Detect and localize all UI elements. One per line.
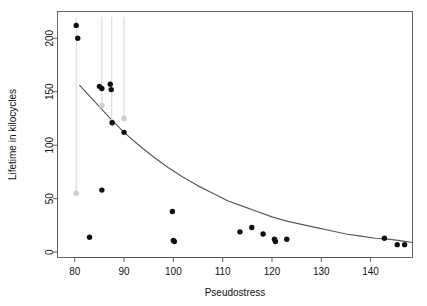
censored-point-3 bbox=[121, 116, 126, 121]
x-tick-label-0: 80 bbox=[69, 266, 81, 277]
censored-point-0 bbox=[74, 191, 79, 196]
y-tick-label-4: 200 bbox=[44, 29, 55, 46]
fit-curve bbox=[80, 85, 413, 242]
x-tick-label-6: 140 bbox=[362, 266, 379, 277]
data-point-7 bbox=[121, 130, 126, 135]
data-point-14 bbox=[249, 225, 254, 230]
data-point-18 bbox=[284, 237, 289, 242]
y-axis-label: Lifetime in kilocycles bbox=[7, 89, 18, 180]
data-point-8 bbox=[99, 187, 104, 192]
data-point-19 bbox=[382, 236, 387, 241]
y-tick-label-0: 0 bbox=[44, 249, 55, 255]
data-point-12 bbox=[172, 239, 177, 244]
data-point-1 bbox=[75, 36, 80, 41]
data-point-17 bbox=[273, 239, 278, 244]
y-tick-label-2: 100 bbox=[44, 136, 55, 153]
data-point-10 bbox=[170, 209, 175, 214]
x-tick-label-5: 130 bbox=[313, 266, 330, 277]
data-point-15 bbox=[260, 231, 265, 236]
y-tick-label-1: 50 bbox=[44, 193, 55, 205]
x-tick-label-4: 120 bbox=[264, 266, 281, 277]
x-tick-label-3: 110 bbox=[215, 266, 231, 277]
data-point-4 bbox=[108, 82, 113, 87]
data-point-3 bbox=[99, 86, 104, 91]
y-tick-label-3: 150 bbox=[44, 83, 55, 100]
chart-container: 8090100110120130140050100150200Pseudostr… bbox=[0, 0, 427, 306]
data-point-6 bbox=[110, 120, 115, 125]
x-axis-label: Pseudostress bbox=[205, 287, 266, 298]
x-tick-label-2: 100 bbox=[165, 266, 182, 277]
scatter-plot: 8090100110120130140050100150200Pseudostr… bbox=[0, 0, 427, 306]
data-point-0 bbox=[74, 23, 79, 28]
data-point-13 bbox=[237, 229, 242, 234]
censored-point-1 bbox=[99, 103, 104, 108]
data-point-20 bbox=[395, 242, 400, 247]
data-point-21 bbox=[402, 242, 407, 247]
plot-frame bbox=[58, 12, 413, 258]
data-point-9 bbox=[87, 234, 92, 239]
x-tick-label-1: 90 bbox=[119, 266, 131, 277]
data-point-5 bbox=[109, 87, 114, 92]
